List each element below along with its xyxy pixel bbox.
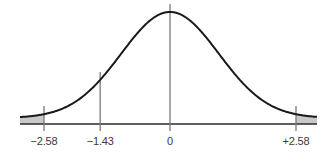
tick-label-pos-2-58: +2.58 — [283, 135, 310, 147]
tick-label-neg-1-43: −1.43 — [87, 135, 114, 147]
bell-curve — [20, 12, 317, 117]
vertical-markers — [44, 4, 296, 131]
normal-distribution-chart — [0, 0, 327, 155]
tick-label-zero: 0 — [167, 135, 173, 147]
tick-label-neg-2-58: −2.58 — [31, 135, 58, 147]
